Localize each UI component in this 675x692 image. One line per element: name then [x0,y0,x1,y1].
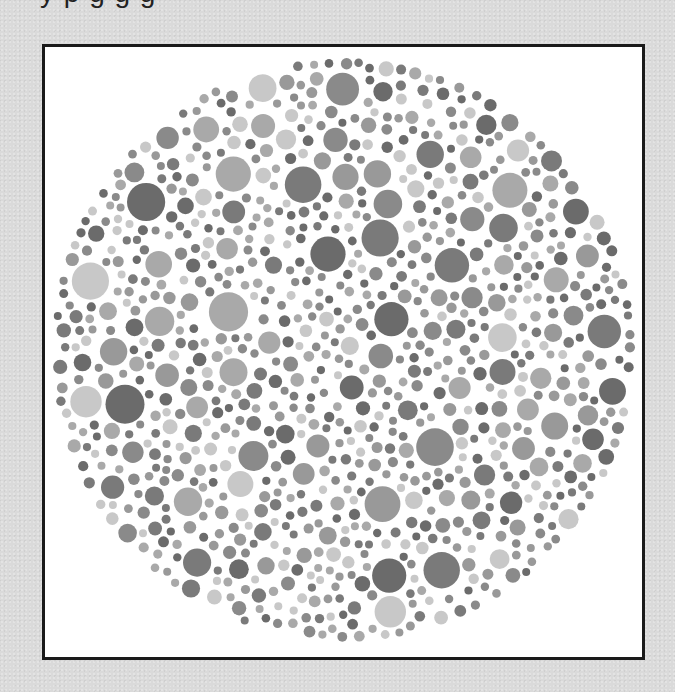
plate-dot [484,239,492,247]
plate-dot [463,174,479,190]
plate-dot [406,517,417,528]
plate-dot [285,166,322,203]
plate-dot [203,418,211,426]
plate-dot [289,404,297,412]
plate-dot [278,560,289,571]
plate-dot [260,246,270,256]
plate-dot [112,193,120,201]
plate-dot [462,558,475,571]
plate-dot [259,491,270,502]
plate-dot [439,490,455,506]
plate-dot [365,64,374,73]
plate-dot [238,441,268,471]
plate-dot [545,447,555,457]
plate-dot [624,362,634,372]
plate-dot [472,192,484,204]
plate-dot [341,337,359,355]
plate-dot [283,336,294,347]
plate-dot [370,108,378,116]
plate-dot [331,225,339,233]
plate-dot [254,523,272,541]
plate-dot [57,323,71,337]
plate-dot [194,464,206,476]
plate-dot [328,625,337,634]
plate-dot [396,65,406,75]
plate-dot [139,529,147,537]
plate-dot [244,333,253,342]
plate-dot [333,402,342,411]
plate-dot [501,114,518,131]
plate-dot [238,398,250,410]
plate-dot [434,131,443,140]
plate-dot [307,572,315,580]
plate-dot [406,589,415,598]
plate-dot [486,503,494,511]
plate-dot [303,351,314,362]
plate-dot [211,432,219,440]
plate-dot [281,387,289,395]
plate-dot [311,376,319,384]
plate-dot [81,336,91,346]
plate-dot [269,375,282,388]
plate-dot [495,422,511,438]
plate-dot [331,338,339,346]
plate-dot [276,129,296,149]
plate-dot [176,326,184,334]
plate-dot [561,364,569,372]
plate-dot [314,152,331,169]
plate-dot [251,114,275,138]
plate-dot [391,528,401,538]
plate-dot [399,443,414,458]
plate-dot [358,265,367,274]
plate-dot [202,151,211,160]
plate-dot [354,420,367,433]
plate-dot [313,222,321,230]
plate-dot [162,504,170,512]
plate-dot [399,175,407,183]
plate-dot [169,350,179,360]
plate-dot [556,492,564,500]
plate-dot [109,501,117,509]
plate-dot [461,491,480,510]
plate-dot [615,356,623,364]
plate-dot [238,344,247,353]
plate-dot [512,539,521,548]
plate-dot [427,413,435,421]
plate-dot [297,548,312,563]
plate-dot [368,388,377,397]
plate-dot [521,168,530,177]
plate-dot [317,366,325,374]
plate-dot [258,332,280,354]
plate-dot [160,393,173,406]
plate-dot [191,446,200,455]
plate-dot [518,372,528,382]
plate-dot [286,266,294,274]
plate-dot [347,437,355,445]
plate-dot [100,338,127,365]
plate-dot [53,360,67,374]
plate-dot [602,263,611,272]
plate-dot [422,99,432,109]
plate-dot [78,461,88,471]
plate-dot [348,237,357,246]
plate-dot [315,288,323,296]
plate-dot [369,344,394,369]
plate-dot [207,590,222,605]
plate-dot [579,392,588,401]
plate-dot [253,213,261,221]
plate-dot [530,311,541,322]
plate-dot [623,300,632,309]
plate-dot [455,466,463,474]
plate-dot [519,241,529,251]
plate-dot [257,557,274,574]
plate-dot [204,443,217,456]
plate-dot [148,522,162,536]
plate-dot [167,158,179,170]
plate-dot [268,440,277,449]
plate-dot [406,461,414,469]
plate-dot [617,279,627,289]
plate-dot [357,187,366,196]
plate-dot [133,236,141,244]
plate-dot [180,452,192,464]
plate-dot [582,429,604,451]
